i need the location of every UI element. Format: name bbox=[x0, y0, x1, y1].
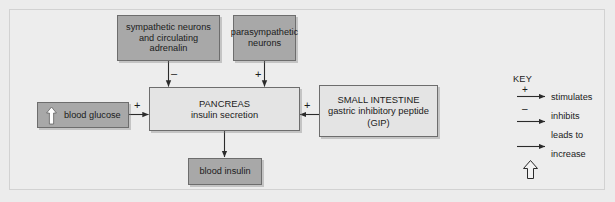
node-pancreas-label: PANCREAS insulin secretion bbox=[191, 98, 258, 120]
legend-item-leads-to: leads to bbox=[513, 125, 605, 144]
edge-sign-small-intestine: + bbox=[304, 100, 310, 111]
up-arrow-increase-icon bbox=[46, 106, 57, 125]
node-blood-glucose[interactable]: blood glucose bbox=[37, 102, 129, 128]
node-small-intestine[interactable]: SMALL INTESTINE gastric inhibitory pepti… bbox=[319, 85, 438, 137]
arrow-right-icon bbox=[513, 125, 547, 144]
edge-sign-blood-glucose: + bbox=[134, 100, 140, 111]
node-blood-insulin-label: blood insulin bbox=[199, 166, 250, 177]
legend-label-increase: increase bbox=[547, 149, 586, 159]
node-blood-insulin[interactable]: blood insulin bbox=[188, 158, 262, 185]
node-small-intestine-label: SMALL INTESTINE gastric inhibitory pepti… bbox=[328, 94, 429, 127]
node-parasympathetic-neurons[interactable]: parasympathetic neurons bbox=[233, 15, 296, 61]
legend-label-inhibits: inhibits bbox=[547, 111, 580, 121]
arrow-right-icon: – bbox=[513, 106, 547, 125]
arrow-right-icon: + bbox=[513, 87, 547, 106]
edge-sign-sympathetic: – bbox=[171, 68, 177, 79]
node-parasympathetic-label: parasympathetic neurons bbox=[231, 27, 298, 49]
node-sympathetic-label: sympathetic neurons and circulating adre… bbox=[126, 22, 211, 55]
legend-item-inhibits: – inhibits bbox=[513, 106, 605, 125]
node-blood-glucose-label: blood glucose bbox=[64, 110, 121, 121]
node-sympathetic-neurons[interactable]: sympathetic neurons and circulating adre… bbox=[117, 15, 220, 61]
legend-sign-stimulates: + bbox=[522, 85, 528, 95]
up-arrow-outline-icon bbox=[513, 144, 547, 163]
legend-label-leads-to: leads to bbox=[547, 130, 583, 140]
legend: KEY + stimulates – inhibits leads to inc… bbox=[513, 74, 605, 163]
legend-label-stimulates: stimulates bbox=[547, 92, 592, 102]
legend-sign-inhibits: – bbox=[522, 104, 528, 114]
node-pancreas[interactable]: PANCREAS insulin secretion bbox=[149, 87, 300, 131]
legend-title: KEY bbox=[513, 74, 605, 84]
edge-sign-parasympathetic: + bbox=[255, 69, 261, 80]
legend-item-increase: increase bbox=[513, 144, 605, 163]
diagram-canvas: – + + + sympathetic neurons and circulat… bbox=[0, 0, 615, 202]
